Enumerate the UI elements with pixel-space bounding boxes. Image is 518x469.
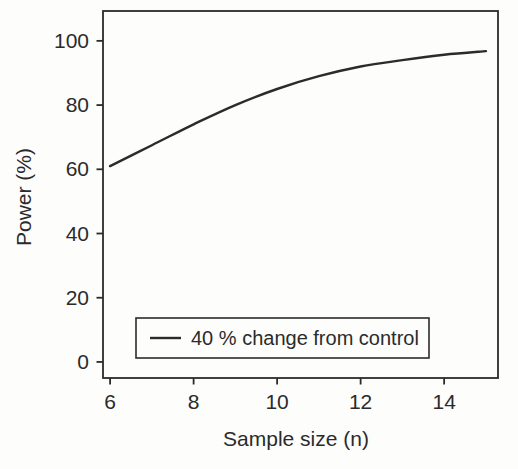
x-tick-label: 14 [432, 390, 456, 413]
y-tick-label: 20 [66, 286, 89, 309]
x-tick-label: 10 [265, 390, 288, 413]
y-tick-label: 60 [66, 157, 89, 180]
x-axis-title: Sample size (n) [223, 427, 369, 450]
y-axis-title: Power (%) [12, 148, 35, 246]
x-tick-label: 6 [104, 390, 116, 413]
y-tick-label: 40 [66, 222, 89, 245]
power-curve-figure: 020406080100 68101214 40 % change from c… [0, 0, 518, 469]
x-tick-label: 12 [349, 390, 372, 413]
legend-label: 40 % change from control [191, 327, 419, 349]
power-curve-line [110, 51, 486, 166]
y-tick-label: 80 [66, 93, 89, 116]
legend: 40 % change from control [136, 318, 429, 358]
y-tick-label: 0 [77, 350, 89, 373]
chart-canvas: 020406080100 68101214 40 % change from c… [0, 0, 518, 469]
y-axis-ticks: 020406080100 [54, 29, 103, 373]
x-axis-ticks: 68101214 [104, 378, 456, 413]
x-tick-label: 8 [188, 390, 200, 413]
y-tick-label: 100 [54, 29, 89, 52]
